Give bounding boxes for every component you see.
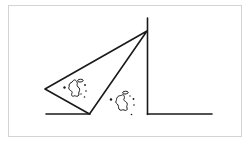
splatter-right <box>110 91 135 115</box>
triangle-shape <box>45 31 147 114</box>
diagram-canvas <box>0 0 250 144</box>
splatter-left <box>63 79 86 98</box>
line-drawing <box>0 0 250 144</box>
